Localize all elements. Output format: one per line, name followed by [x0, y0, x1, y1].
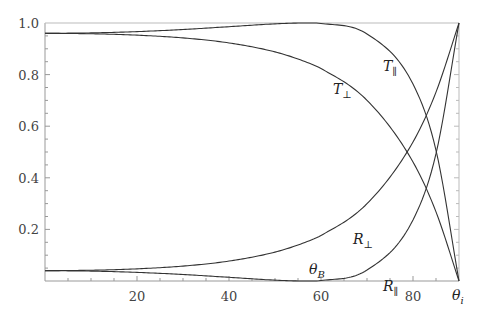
- plot-frame: [45, 23, 459, 281]
- axis-ticks: 204060800.20.40.60.81.0: [18, 16, 459, 304]
- label-T∥: T∥: [383, 58, 397, 77]
- brewster-angle-label: θB: [309, 261, 325, 280]
- y-tick-label: 0.6: [18, 119, 39, 134]
- curve-T∥: [45, 23, 459, 281]
- x-tick-label: 60: [313, 289, 330, 304]
- label-R⊥: R⊥: [352, 231, 373, 250]
- y-tick-label: 0.4: [18, 171, 39, 186]
- y-tick-label: 0.2: [18, 222, 39, 237]
- curve-R⊥: [45, 23, 459, 271]
- x-tick-label: 20: [129, 289, 146, 304]
- y-tick-label: 1.0: [18, 16, 39, 31]
- x-tick-label: 80: [405, 289, 422, 304]
- y-tick-label: 0.8: [18, 68, 39, 83]
- curve-R∥: [45, 23, 459, 281]
- x-axis-label: θi: [452, 287, 464, 306]
- x-tick-label: 40: [221, 289, 238, 304]
- fresnel-chart: 204060800.20.40.60.81.0 R⊥R∥T⊥T∥θBθi: [0, 0, 487, 313]
- label-T⊥: T⊥: [333, 81, 352, 100]
- curves: [45, 23, 459, 281]
